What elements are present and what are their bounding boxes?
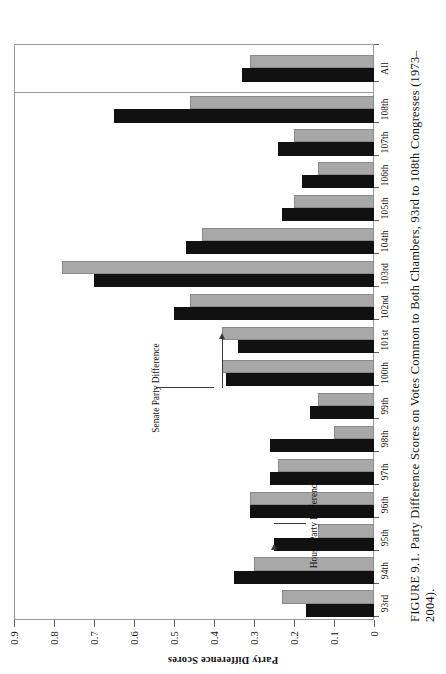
bar-senate-108th [190, 96, 374, 109]
senate-party-difference-arrowhead-icon [219, 333, 225, 339]
bar-senate-93rd [282, 590, 374, 603]
bar-house-100th [226, 373, 374, 386]
category-label-100th: 100th [380, 362, 390, 384]
house-party-difference-annotation-label: House Party Difference [309, 480, 319, 568]
senate-party-difference-leader-line [222, 338, 223, 388]
value-axis-tick [134, 620, 135, 627]
value-axis-tick-label: 0 [369, 631, 380, 636]
plot-area: 00.10.20.30.40.50.60.70.80.9 House Party… [14, 44, 374, 620]
bar-house-97th [270, 472, 374, 485]
bar-senate-103rd [62, 261, 374, 274]
value-axis-tick-label: 0.5 [169, 631, 180, 645]
senate-party-difference-annotation-label: Senate Party Difference [151, 343, 161, 432]
category-axis-tick [374, 81, 379, 82]
category-axis-tick [374, 517, 379, 518]
bar-house-103rd [94, 274, 374, 287]
bar-senate-All [250, 55, 374, 68]
figure: 00.10.20.30.40.50.60.70.80.9 House Party… [0, 0, 446, 674]
category-label-101st: 101st [380, 330, 390, 351]
bar-senate-98th [334, 426, 374, 439]
category-axis-tick [374, 319, 379, 320]
value-axis-tick [214, 620, 215, 627]
category-axis-tick [374, 122, 379, 123]
value-axis-tick [14, 620, 15, 627]
value-axis-tick [334, 620, 335, 627]
bar-senate-97th [278, 459, 374, 472]
category-label-99th: 99th [380, 397, 390, 414]
category-label-107th: 107th [380, 131, 390, 153]
category-axis-tick [374, 385, 379, 386]
value-axis-tick [254, 620, 255, 627]
category-label-108th: 108th [380, 99, 390, 121]
bar-senate-105th [294, 195, 374, 208]
bar-senate-104th [202, 228, 374, 241]
senate-party-difference-leader-stub [156, 387, 214, 388]
category-axis-tick [374, 451, 379, 452]
category-axis-tick [374, 418, 379, 419]
category-label-All: All [380, 62, 390, 74]
value-axis-tick [294, 620, 295, 627]
category-label-93rd: 93rd [380, 595, 390, 613]
category-label-102nd: 102nd [380, 295, 390, 319]
value-axis-tick-label: 0.1 [329, 631, 340, 645]
bar-senate-100th [222, 360, 374, 373]
bar-house-95th [274, 538, 374, 551]
category-label-104th: 104th [380, 230, 390, 252]
category-axis-tick [374, 155, 379, 156]
bar-house-104th [186, 241, 374, 254]
category-label-97th: 97th [380, 463, 390, 480]
category-label-95th: 95th [380, 529, 390, 546]
category-axis-tick [374, 352, 379, 353]
house-party-difference-leader-stub [274, 523, 306, 524]
bar-house-All [242, 68, 374, 81]
value-axis-tick [374, 620, 375, 627]
bar-senate-99th [318, 393, 374, 406]
category-axis-tick [374, 583, 379, 584]
category-axis: 93rd94th95th96th97th98th99th100th101st10… [374, 44, 394, 620]
value-axis-tick-label: 0.3 [249, 631, 260, 645]
bar-house-108th [114, 109, 374, 122]
value-axis-tick-label: 0.9 [9, 631, 20, 645]
category-axis-tick [374, 220, 379, 221]
bar-senate-102nd [190, 294, 374, 307]
value-axis-tick-label: 0.2 [289, 631, 300, 645]
bar-senate-95th [318, 524, 374, 537]
figure-number: FIGURE 9.1. [408, 553, 422, 622]
category-label-98th: 98th [380, 430, 390, 447]
bar-house-93rd [306, 604, 374, 617]
bar-house-94th [234, 571, 374, 584]
category-axis-tick [374, 484, 379, 485]
caption-text: Party Difference Scores on Votes Common … [408, 50, 437, 622]
category-label-105th: 105th [380, 197, 390, 219]
value-axis-tick-label: 0.4 [209, 631, 220, 645]
bar-house-105th [282, 208, 374, 221]
bar-house-101st [238, 340, 374, 353]
house-party-difference-arrowhead-icon [271, 544, 277, 550]
bar-house-98th [270, 439, 374, 452]
category-label-96th: 96th [380, 496, 390, 513]
bar-senate-106th [318, 162, 374, 175]
category-axis-tick [374, 550, 379, 551]
category-label-103rd: 103rd [380, 263, 390, 285]
category-label-94th: 94th [380, 562, 390, 579]
rotated-figure-container: 00.10.20.30.40.50.60.70.80.9 House Party… [0, 0, 446, 674]
value-axis-tick [54, 620, 55, 627]
category-axis-tick [374, 286, 379, 287]
value-axis-title: Party Difference Scores [168, 655, 278, 666]
bar-house-99th [310, 406, 374, 419]
value-axis-tick-label: 0.8 [49, 631, 60, 645]
category-label-106th: 106th [380, 164, 390, 186]
category-axis-tick [374, 616, 379, 617]
category-axis-tick [374, 188, 379, 189]
bar-house-107th [278, 142, 374, 155]
bar-house-102nd [174, 307, 374, 320]
bar-senate-101st [222, 327, 374, 340]
bar-house-106th [302, 175, 374, 188]
figure-caption: FIGURE 9.1. Party Difference Scores on V… [408, 22, 438, 622]
category-axis-tick [374, 253, 379, 254]
bar-senate-107th [294, 129, 374, 142]
figure-page: 00.10.20.30.40.50.60.70.80.9 House Party… [0, 0, 446, 674]
category-axis-tick [374, 44, 379, 45]
value-axis-tick-label: 0.7 [89, 631, 100, 645]
value-axis-tick-label: 0.6 [129, 631, 140, 645]
